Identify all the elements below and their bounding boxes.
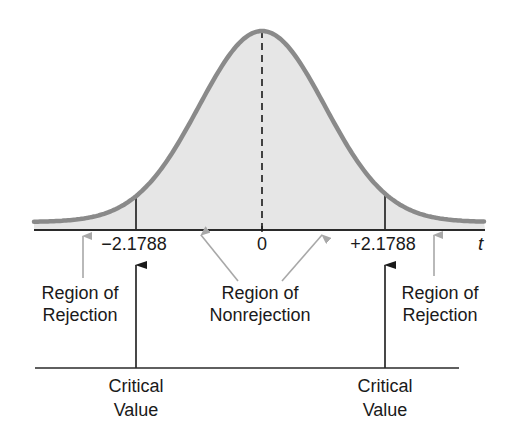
left-critical-value-label: Critical Value bbox=[86, 374, 186, 422]
label-line: Region of bbox=[26, 282, 134, 304]
label-line: Rejection bbox=[386, 304, 494, 326]
label-line: Value bbox=[335, 398, 435, 422]
label-line: Critical bbox=[335, 374, 435, 398]
label-line: Rejection bbox=[26, 304, 134, 326]
label-line: Region of bbox=[195, 282, 325, 304]
left-rejection-label: Region of Rejection bbox=[26, 282, 134, 326]
label-line: Value bbox=[86, 398, 186, 422]
right-critical-value-label: Critical Value bbox=[335, 374, 435, 422]
t-distribution-diagram: −2.1788 0 +2.1788 t Region of Rejection … bbox=[0, 0, 514, 447]
label-line: Critical bbox=[86, 374, 186, 398]
right-rejection-label: Region of Rejection bbox=[386, 282, 494, 326]
tick-left-critical: −2.1788 bbox=[101, 234, 167, 254]
label-line: Region of bbox=[386, 282, 494, 304]
nonrejection-arrow-left bbox=[201, 235, 238, 281]
diagram-canvas bbox=[0, 0, 514, 447]
tick-zero: 0 bbox=[257, 234, 267, 254]
axis-variable-label: t bbox=[478, 233, 483, 255]
nonrejection-arrow-right bbox=[282, 235, 322, 281]
label-line: Nonrejection bbox=[195, 304, 325, 326]
distribution-area bbox=[34, 31, 485, 230]
tick-right-critical: +2.1788 bbox=[350, 234, 416, 254]
nonrejection-label: Region of Nonrejection bbox=[195, 282, 325, 326]
